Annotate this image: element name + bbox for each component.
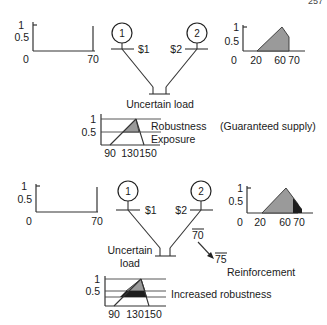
x-tick-90: 90	[104, 147, 116, 159]
x-tick-20: 20	[250, 54, 262, 66]
gen2-availability-shape	[257, 27, 289, 51]
y-tick-0.5: 0.5	[81, 126, 96, 138]
y-tick-0.5: 0.5	[85, 285, 100, 297]
bottom-load-chart: 1 0.5 90 130 150 Increased robustness	[85, 273, 271, 320]
load-label-line1: Uncertain	[108, 244, 153, 256]
y-tick-1: 1	[233, 21, 239, 33]
x-tick-60: 60	[279, 216, 291, 228]
x-tick-70: 70	[91, 215, 103, 227]
x-tick-130: 130	[126, 308, 144, 320]
price-1: $1	[145, 204, 157, 216]
x-tick-70: 70	[288, 54, 300, 66]
x-tick-0: 0	[231, 54, 237, 66]
x-tick-70: 70	[87, 53, 99, 65]
load-label-line2: load	[120, 257, 140, 269]
x-tick-0: 0	[23, 53, 29, 65]
top-network: 1 $1 2 $2 Uncertain load	[111, 23, 208, 110]
y-tick-1: 1	[237, 182, 243, 194]
x-tick-150: 150	[139, 147, 157, 159]
x-tick-0: 0	[237, 216, 243, 228]
load-label: Uncertain load	[126, 98, 194, 110]
price-1: $1	[138, 43, 150, 55]
price-2: $2	[175, 204, 187, 216]
y-tick-1: 1	[21, 180, 27, 192]
gen2-availability-shape	[262, 188, 298, 213]
node1-label: 1	[119, 28, 125, 39]
x-tick-0: 0	[26, 215, 32, 227]
x-tick-70: 70	[293, 216, 305, 228]
x-tick-90: 90	[108, 308, 120, 320]
reinforcement-increment-tail	[298, 204, 302, 213]
top-gen2-chart: 1 0.5 0 20 60 70	[224, 21, 305, 66]
x-tick-150: 150	[144, 308, 162, 320]
exposure-label: Exposure	[151, 133, 196, 145]
increased-robustness-label: Increased robustness	[171, 288, 271, 300]
reinforcement-label: Reinforcement	[227, 266, 295, 278]
price-2: $2	[170, 43, 182, 55]
bottom-gen1-chart: 1 0.5 0 70	[17, 180, 103, 227]
line-limit-old: 70	[192, 229, 204, 241]
node2-label: 2	[194, 28, 200, 39]
x-tick-20: 20	[254, 216, 266, 228]
x-tick-130: 130	[121, 147, 139, 159]
y-tick-0.5: 0.5	[14, 31, 29, 43]
diagram-canvas: 1 0.5 0 70 1 $1 2 $2 Uncertain load 1 0.…	[0, 0, 327, 325]
bottom-network: 1 $1 2 $2 Uncertain load 70 75 Reinforce…	[108, 181, 296, 278]
top-gen1-chart: 1 0.5 0 70	[14, 19, 99, 65]
y-tick-0.5: 0.5	[224, 35, 239, 47]
y-tick-0.5: 0.5	[228, 195, 243, 207]
top-load-chart: 1 0.5 90 130 150 Robustness Exposure (Gu…	[81, 113, 315, 159]
bottom-gen2-chart: 1 0.5 0 20 60 70	[228, 182, 313, 228]
node1-label: 1	[125, 186, 131, 197]
y-tick-1: 1	[94, 273, 100, 285]
x-tick-60: 60	[274, 54, 286, 66]
robustness-label: Robustness	[151, 120, 206, 132]
node2-label: 2	[198, 186, 204, 197]
y-tick-0.5: 0.5	[17, 193, 32, 205]
y-tick-1: 1	[90, 113, 96, 125]
line-limit-new: 75	[215, 253, 227, 265]
y-tick-1: 1	[18, 19, 24, 31]
guaranteed-supply-note: (Guaranteed supply)	[220, 120, 316, 132]
